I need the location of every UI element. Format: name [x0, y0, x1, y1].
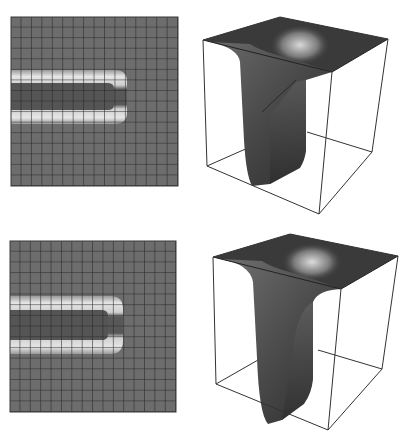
figure-bottom-row	[0, 218, 412, 437]
top-3d-surface-plot	[0, 0, 412, 218]
figure-top-row	[0, 0, 412, 218]
bottom-3d-surface-plot	[0, 218, 412, 437]
